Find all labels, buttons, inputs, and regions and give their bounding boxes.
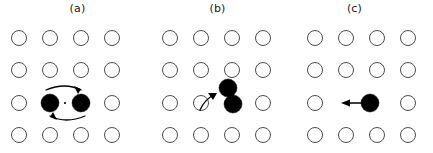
lattice-site: [370, 63, 385, 78]
lattice-site: [308, 63, 323, 78]
panel-b-lattice: [145, 0, 290, 153]
atom: [224, 95, 242, 113]
lattice-site: [401, 63, 416, 78]
lattice-site: [256, 96, 271, 111]
lattice-site: [256, 128, 271, 143]
lattice-site: [163, 31, 178, 46]
lattice-site: [105, 128, 120, 143]
panel-a: (a): [0, 0, 145, 153]
lattice-site: [163, 128, 178, 143]
lattice-diagram-figure: (a): [0, 0, 433, 153]
interstitial-arrow-head: [208, 93, 217, 100]
lattice-site: [256, 31, 271, 46]
atom: [219, 79, 237, 97]
lattice-site: [225, 31, 240, 46]
lattice-site: [194, 63, 209, 78]
lattice-site: [308, 128, 323, 143]
exchange-arrow-bottom-head: [50, 112, 57, 120]
lattice-site: [12, 63, 27, 78]
atom: [72, 94, 90, 112]
atom: [41, 94, 59, 112]
exchange-arrow-top-head: [74, 86, 81, 94]
lattice-site: [401, 96, 416, 111]
lattice-site: [256, 63, 271, 78]
lattice-site: [194, 128, 209, 143]
lattice-site: [43, 63, 58, 78]
lattice-site: [339, 63, 354, 78]
lattice-site: [225, 63, 240, 78]
lattice-site: [12, 31, 27, 46]
lattice-site: [339, 31, 354, 46]
lattice-site: [308, 96, 323, 111]
lattice-site: [163, 96, 178, 111]
panel-c-lattice: [288, 0, 433, 153]
lattice-site: [225, 128, 240, 143]
lattice-site: [370, 31, 385, 46]
panel-c: (c): [288, 0, 433, 153]
rotation-pivot-dot: [64, 102, 66, 104]
lattice-site: [105, 96, 120, 111]
lattice-site: [12, 96, 27, 111]
panel-a-lattice: [0, 0, 145, 153]
lattice-site: [74, 128, 89, 143]
lattice-site: [370, 128, 385, 143]
lattice-site: [105, 63, 120, 78]
lattice-site: [105, 31, 120, 46]
lattice-site: [12, 128, 27, 143]
lattice-site: [43, 128, 58, 143]
lattice-site: [308, 31, 323, 46]
migration-arrow-head: [341, 100, 350, 107]
panel-b: (b): [145, 0, 290, 153]
lattice-site: [74, 31, 89, 46]
lattice-site: [74, 63, 89, 78]
lattice-site: [401, 31, 416, 46]
lattice-site: [194, 31, 209, 46]
lattice-site: [163, 63, 178, 78]
lattice-site: [43, 31, 58, 46]
lattice-site: [401, 128, 416, 143]
lattice-site: [339, 128, 354, 143]
atom: [361, 94, 379, 112]
